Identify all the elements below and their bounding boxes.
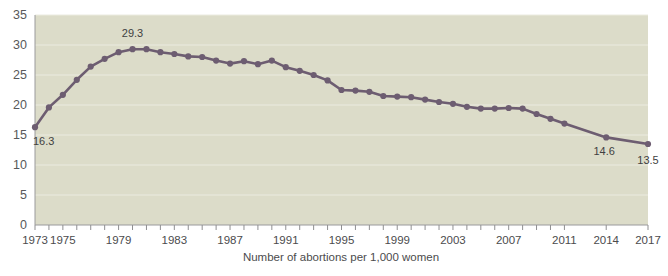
data-point-marker [506, 105, 512, 111]
data-point-marker [129, 46, 135, 52]
data-point-marker [60, 92, 66, 98]
chart-canvas: 05101520253035 1973197519791983198719911… [0, 0, 668, 276]
data-point-marker [352, 88, 358, 94]
data-point-marker [199, 54, 205, 60]
data-point-label: 13.5 [637, 154, 658, 166]
data-point-marker [492, 106, 498, 112]
y-axis-tick-label: 35 [13, 8, 27, 22]
data-point-marker [32, 124, 38, 130]
data-point-marker [143, 46, 149, 52]
x-axis-tick-labels: 1973197519791983198719911995199920032007… [22, 234, 661, 246]
data-point-marker [115, 49, 121, 55]
data-point-label: 14.6 [593, 145, 614, 157]
x-axis-tick-label: 2014 [593, 234, 619, 246]
y-axis-tick-label: 30 [13, 38, 27, 52]
data-point-marker [297, 68, 303, 74]
data-point-marker [227, 61, 233, 67]
x-axis-tick-label: 1973 [22, 234, 48, 246]
data-point-marker [269, 58, 275, 64]
x-axis-tick-label: 1983 [162, 234, 188, 246]
data-point-marker [324, 77, 330, 83]
x-axis-tick-label: 2003 [440, 234, 466, 246]
data-point-marker [338, 87, 344, 93]
data-point-marker [311, 72, 317, 78]
data-point-marker [464, 104, 470, 110]
x-axis-tick-label: 1999 [384, 234, 410, 246]
y-axis-tick-label: 20 [13, 98, 27, 112]
data-point-marker [241, 58, 247, 64]
y-axis-tick-label: 0 [20, 218, 27, 232]
y-axis-tick-label: 5 [20, 188, 27, 202]
x-axis-tick-label: 1987 [217, 234, 243, 246]
data-point-marker [450, 101, 456, 107]
data-point-marker [520, 106, 526, 112]
x-axis-tick-label: 1991 [273, 234, 299, 246]
data-point-marker [533, 111, 539, 117]
data-point-marker [366, 89, 372, 95]
data-point-marker [74, 77, 80, 83]
data-point-label: 29.3 [122, 27, 143, 39]
data-point-marker [171, 51, 177, 57]
x-axis-tick-label: 1975 [50, 234, 76, 246]
data-point-marker [185, 53, 191, 59]
data-point-marker [380, 93, 386, 99]
data-point-marker [283, 64, 289, 70]
abortion-rate-line-chart: 05101520253035 1973197519791983198719911… [0, 0, 668, 276]
y-axis-tick-label: 10 [13, 158, 27, 172]
x-axis-tick-label: 2011 [552, 234, 577, 246]
data-point-marker [157, 49, 163, 55]
y-axis-tick-label: 15 [13, 128, 27, 142]
data-point-label: 16.3 [33, 135, 54, 147]
data-point-marker [213, 58, 219, 64]
data-point-marker [102, 56, 108, 62]
data-point-marker [547, 116, 553, 122]
data-point-marker [408, 94, 414, 100]
x-axis-tick-label: 2017 [635, 234, 661, 246]
x-axis-tick-label: 1995 [329, 234, 355, 246]
data-point-marker [603, 134, 609, 140]
data-point-marker [394, 94, 400, 100]
y-axis-tick-label: 25 [13, 68, 27, 82]
data-point-marker [88, 64, 94, 70]
data-point-marker [422, 97, 428, 103]
data-point-marker [46, 104, 52, 110]
data-point-marker [478, 106, 484, 112]
x-axis-tick-label: 2007 [496, 234, 522, 246]
data-point-marker [561, 121, 567, 127]
data-point-marker [645, 141, 651, 147]
x-axis-tick-label: 1979 [106, 234, 132, 246]
x-axis-title: Number of abortions per 1,000 women [243, 251, 439, 263]
data-point-marker [255, 61, 261, 67]
data-point-marker [436, 99, 442, 105]
